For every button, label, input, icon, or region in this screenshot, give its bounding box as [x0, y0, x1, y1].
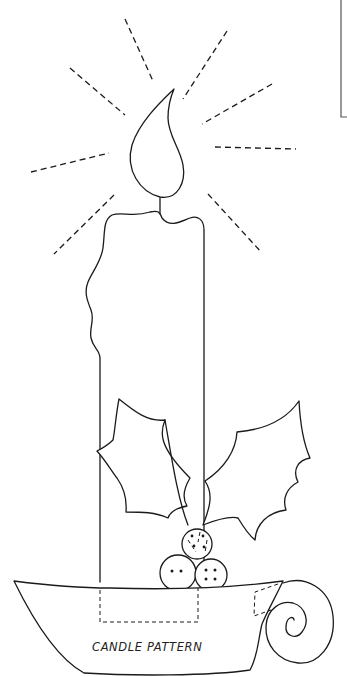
holly-leaf-right [203, 401, 310, 540]
holly-berries [160, 529, 227, 591]
flame [130, 89, 183, 214]
ray-upper-left [70, 68, 125, 115]
ray-top-right [183, 31, 227, 99]
ray-left [31, 153, 109, 172]
pattern-title: CANDLE PATTERN [92, 640, 202, 654]
ray-top [125, 19, 153, 81]
ray-lower-right [208, 194, 262, 253]
berry-top [182, 529, 212, 559]
ray-upper-right [202, 84, 272, 124]
ray-right [215, 147, 296, 149]
candle-holder: CANDLE PATTERN [14, 581, 333, 675]
candle [86, 211, 204, 582]
candle-pattern-drawing: CANDLE PATTERN [0, 0, 347, 677]
adjacent-frame-edge [341, 0, 347, 117]
holly-leaf-left [97, 399, 190, 518]
berry-left [160, 555, 196, 591]
holder-bowl [14, 581, 283, 675]
